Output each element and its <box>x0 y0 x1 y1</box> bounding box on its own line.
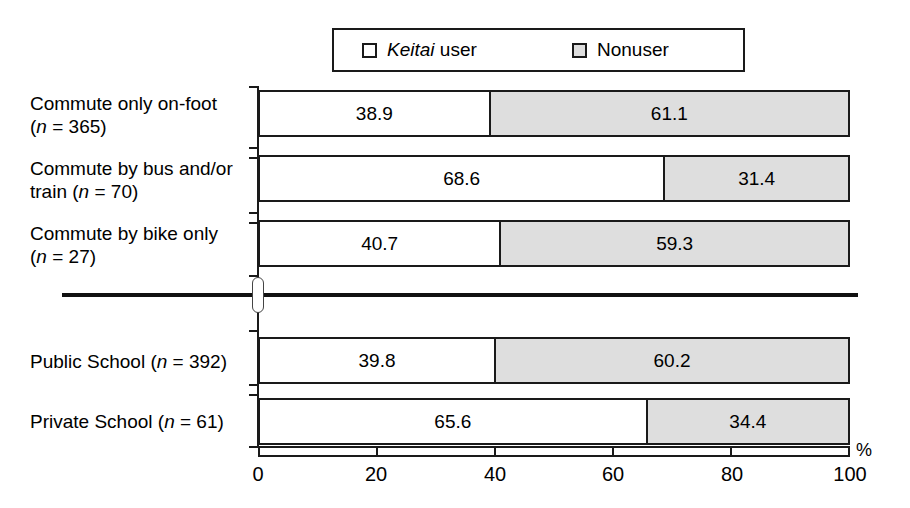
x-axis-tick-label: 20 <box>365 463 387 486</box>
y-axis-tick <box>249 394 258 396</box>
bar-value-label: 40.7 <box>361 233 398 255</box>
bar-value-label: 59.3 <box>656 233 693 255</box>
x-axis-interval <box>496 448 614 455</box>
sample-size-value: = 27) <box>47 246 96 267</box>
sample-size-value: = 61) <box>175 411 224 432</box>
bar-segment-nonuser: 31.4 <box>663 157 848 200</box>
x-axis-tick-label: 0 <box>252 463 263 486</box>
plot-area: Commute only on-foot (n = 365) 38.9 61.1… <box>0 0 910 508</box>
sample-size-symbol: n <box>157 351 168 372</box>
sample-size-value: = 70) <box>89 181 138 202</box>
bar-segment-keitai-user: 39.8 <box>260 339 494 382</box>
bar-row: 65.6 34.4 <box>258 398 850 445</box>
sample-size-value: = 365) <box>47 116 107 137</box>
x-axis-unit-label: % <box>856 440 872 461</box>
y-axis-tick <box>249 212 258 214</box>
y-axis-tick <box>249 86 258 88</box>
bar-segment-nonuser: 61.1 <box>489 92 848 135</box>
sample-size-symbol: n <box>36 116 47 137</box>
category-label-line: Private School ( <box>30 411 164 432</box>
bar-segment-nonuser: 60.2 <box>494 339 848 382</box>
bar-segment-keitai-user: 65.6 <box>260 400 646 443</box>
group-separator-line <box>62 293 858 297</box>
bar-segment-nonuser: 59.3 <box>499 222 848 265</box>
bar-value-label: 31.4 <box>738 168 775 190</box>
bar-value-label: 65.6 <box>434 411 471 433</box>
axis-break-icon <box>252 277 264 313</box>
bar-value-label: 60.2 <box>654 350 691 372</box>
x-axis-interval <box>732 448 848 455</box>
bar-value-label: 38.9 <box>356 103 393 125</box>
bar-segment-keitai-user: 68.6 <box>260 157 663 200</box>
category-label-private-school: Private School (n = 61) <box>30 410 255 433</box>
sample-size-symbol: n <box>36 246 47 267</box>
stacked-bar-chart-figure: Keitai user Nonuser Commute only on-foot… <box>0 0 910 508</box>
category-label-commute-bus-train: Commute by bus and/or train (n = 70) <box>30 157 255 203</box>
y-axis-tick <box>249 147 258 149</box>
y-axis-tick <box>249 384 258 386</box>
bar-segment-keitai-user: 38.9 <box>260 92 489 135</box>
x-axis-interval <box>378 448 496 455</box>
bar-value-label: 39.8 <box>359 350 396 372</box>
bar-row: 40.7 59.3 <box>258 220 850 267</box>
bar-segment-nonuser: 34.4 <box>646 400 848 443</box>
bar-value-label: 61.1 <box>651 103 688 125</box>
bar-row: 68.6 31.4 <box>258 155 850 202</box>
bar-value-label: 68.6 <box>443 168 480 190</box>
category-label-commute-bike: Commute by bike only (n = 27) <box>30 222 255 268</box>
y-axis-tick <box>249 446 258 448</box>
x-axis-interval <box>614 448 732 455</box>
bar-value-label: 34.4 <box>729 411 766 433</box>
x-axis <box>258 446 850 457</box>
category-label-line: Commute only on-foot <box>30 93 217 114</box>
x-axis-tick-label: 60 <box>602 463 624 486</box>
bar-row: 39.8 60.2 <box>258 337 850 384</box>
sample-size-symbol: n <box>164 411 175 432</box>
x-axis-tick-label: 100 <box>833 463 866 486</box>
sample-size-symbol: n <box>79 181 90 202</box>
bar-row: 38.9 61.1 <box>258 90 850 137</box>
category-label-line: Commute by bike only <box>30 223 218 244</box>
x-axis-tick-label: 80 <box>721 463 743 486</box>
category-label-public-school: Public School (n = 392) <box>30 350 255 373</box>
sample-size-value: = 392) <box>167 351 227 372</box>
category-label-line: Public School ( <box>30 351 157 372</box>
category-label-line: train ( <box>30 181 79 202</box>
bar-segment-keitai-user: 40.7 <box>260 222 499 265</box>
category-label-commute-on-foot: Commute only on-foot (n = 365) <box>30 92 255 138</box>
x-axis-interval <box>260 448 378 455</box>
y-axis-tick <box>249 330 258 332</box>
x-axis-tick-label: 40 <box>484 463 506 486</box>
category-label-line: Commute by bus and/or <box>30 158 233 179</box>
